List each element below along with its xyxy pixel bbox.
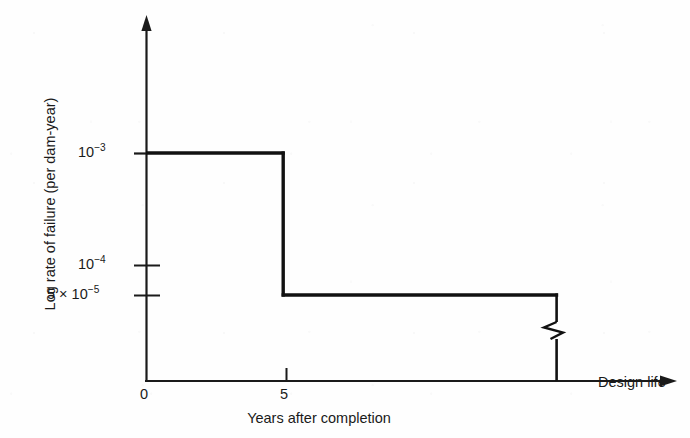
design-life-drop-line (544, 293, 563, 381)
y-axis (141, 15, 151, 382)
x-tick-label-5: 5 (280, 386, 288, 402)
y-axis-arrowhead (141, 15, 151, 31)
axis-break-zigzag-icon (544, 322, 563, 339)
design-life-annotation: Design life (598, 374, 666, 390)
y-tick-label-10e-3-exponent: −3 (94, 142, 106, 153)
y-tick-label-10e-3-mantissa: 10 (78, 144, 94, 160)
y-tick-label-5x10e-5-exponent: −5 (88, 284, 100, 295)
y-tick-label-10e-4-mantissa: 10 (78, 256, 94, 272)
x-axis-title: Years after completion (146, 410, 492, 426)
failure-rate-step-curve (146, 151, 558, 296)
y-tick-label-10e-3: 10−3 (78, 144, 106, 160)
y-axis-title: Log rate of failure (per dam-year) (42, 84, 58, 324)
y-tick-label-10e-4-exponent: −4 (94, 254, 106, 265)
x-tick-label-0: 0 (140, 386, 148, 402)
chart-plot-area (0, 0, 690, 438)
figure-canvas: 10−3 10−4 5 × 10−5 0 5 Log rate of failu… (0, 0, 690, 438)
y-tick-label-10e-4: 10−4 (78, 256, 106, 272)
